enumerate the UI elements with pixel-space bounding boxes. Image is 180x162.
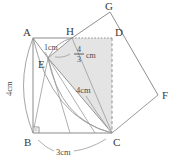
vertex-label-f: F (162, 89, 168, 101)
vertex-label-g: G (105, 0, 113, 12)
right-angle-dot-at-b (34, 128, 38, 132)
vertex-label-b: B (24, 136, 31, 148)
vertex-label-d: D (115, 26, 123, 38)
vertex-label-h: H (66, 25, 74, 37)
measure-label-eh-denominator: 3 (77, 55, 81, 64)
measure-label-eh-unit: cm (86, 51, 97, 60)
arc-a-to-b (24, 38, 34, 133)
leader-bc-left (38, 140, 54, 151)
flap-edge-g-to-f (110, 12, 158, 95)
vertex-label-e: E (38, 58, 45, 70)
flap-edge-f-to-c (112, 95, 158, 133)
leader-bc-right (74, 139, 106, 151)
measure-label-ae: 1cm (44, 43, 59, 52)
measure-label-ec: 4cm (76, 85, 91, 95)
vertex-label-a: A (23, 26, 31, 38)
measure-label-ab: 4cm (4, 81, 14, 96)
geometry-canvas: A B C D E F G H 1cm 4 3 cm 4cm 4cm 3cm (0, 0, 180, 162)
flap-edge-g-to-h (72, 12, 110, 38)
measure-label-bc: 3cm (56, 147, 71, 157)
measure-label-eh-numerator: 4 (77, 45, 81, 54)
geometry-figure: A B C D E F G H 1cm 4 3 cm 4cm 4cm 3cm (0, 0, 180, 162)
vertex-label-c: C (113, 136, 120, 148)
